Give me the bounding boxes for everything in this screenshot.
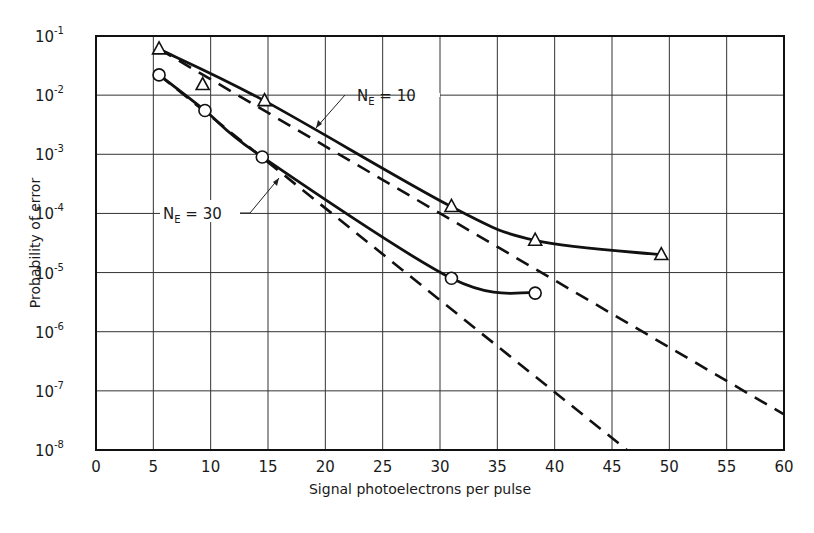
theory-line xyxy=(159,49,784,414)
error-probability-chart: 051015202530354045505560 10-110-210-310-… xyxy=(0,0,814,533)
x-axis-label: Signal photoelectrons per pulse xyxy=(309,481,531,497)
x-tick-label: 50 xyxy=(660,458,679,476)
circle-marker xyxy=(199,104,211,116)
y-axis-label: Probability of error xyxy=(27,178,43,309)
x-tick-label: 5 xyxy=(149,458,159,476)
triangle-marker xyxy=(196,78,209,90)
x-tick-label: 40 xyxy=(545,458,564,476)
y-tick-label: 10-7 xyxy=(35,380,64,401)
x-tick-label: 20 xyxy=(316,458,335,476)
x-tick-label: 55 xyxy=(717,458,736,476)
svg-text:NE = 10: NE = 10 xyxy=(357,87,416,107)
y-tick-label: 10-8 xyxy=(35,439,64,460)
x-axis-tick-labels: 051015202530354045505560 xyxy=(91,458,793,476)
x-tick-label: 0 xyxy=(91,458,101,476)
circle-marker xyxy=(153,69,165,81)
circle-marker xyxy=(445,272,457,284)
y-tick-label: 10-3 xyxy=(35,143,64,164)
circle-marker xyxy=(256,151,268,163)
x-tick-label: 25 xyxy=(373,458,392,476)
x-tick-label: 35 xyxy=(488,458,507,476)
theory-dashed-lines xyxy=(159,49,784,450)
measured-curve xyxy=(159,75,535,293)
y-tick-label: 10-6 xyxy=(35,321,64,342)
grid-lines xyxy=(96,36,784,450)
y-tick-label: 10-2 xyxy=(35,84,64,105)
annotation-ne-30: NE = 30 xyxy=(160,178,279,225)
data-markers xyxy=(153,42,668,299)
triangle-marker xyxy=(153,42,166,54)
x-tick-label: 45 xyxy=(602,458,621,476)
circle-marker xyxy=(529,287,541,299)
x-tick-label: 10 xyxy=(201,458,220,476)
svg-text:NE = 30: NE = 30 xyxy=(163,205,222,225)
x-tick-label: 30 xyxy=(430,458,449,476)
annotation-ne-10: NE = 10 xyxy=(316,87,440,128)
x-tick-label: 60 xyxy=(774,458,793,476)
x-tick-label: 15 xyxy=(258,458,277,476)
y-tick-label: 10-1 xyxy=(35,25,64,46)
measured-curve xyxy=(159,49,661,255)
measured-solid-curves xyxy=(159,49,661,293)
